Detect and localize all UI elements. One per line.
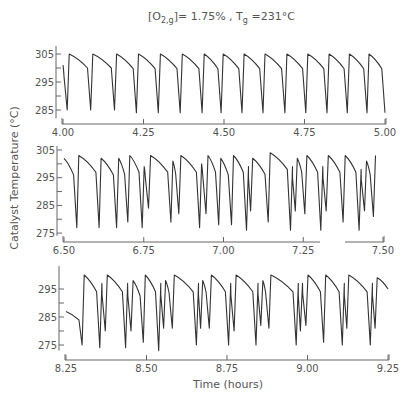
x-tick-label: 8.25 [55, 363, 77, 374]
panel-3: 2752852958.258.508.759.009.25 [38, 266, 399, 374]
y-tick-label: 285 [38, 312, 57, 323]
x-tick-label: 8.50 [135, 363, 157, 374]
x-tick-label: 7.50 [372, 245, 394, 256]
y-tick-label: 305 [35, 49, 54, 60]
panel-2: 2752852953056.506.757.007.257.50 [36, 145, 394, 257]
x-tick-label: 4.75 [293, 127, 315, 138]
y-axis-title: Catalyst Temperature (°C) [8, 106, 21, 250]
x-tick-label: 8.75 [216, 363, 238, 374]
y-tick-label: 295 [36, 172, 55, 183]
chart-title: [O2,g]= 1.75% , Tg =231°C [148, 10, 295, 25]
x-tick-label: 6.50 [53, 245, 75, 256]
x-tick-label: 7.00 [212, 245, 234, 256]
y-tick-label: 275 [38, 340, 57, 351]
y-tick-label: 285 [36, 200, 55, 211]
x-tick-label: 9.00 [296, 363, 318, 374]
title-subscript: 2,g [161, 16, 174, 25]
x-tick-label: 5.00 [374, 127, 396, 138]
x-tick-label: 4.50 [213, 127, 235, 138]
y-tick-label: 295 [35, 77, 54, 88]
y-tick-label: 285 [35, 105, 54, 116]
y-tick-label: 305 [36, 145, 55, 156]
figure: [O2,g]= 1.75% , Tg =231°C Catalyst Tempe… [0, 0, 412, 400]
x-tick-label: 9.25 [377, 363, 399, 374]
x-tick-label: 6.75 [133, 245, 155, 256]
y-tick-label: 295 [38, 284, 57, 295]
panel-1: 2852953054.004.254.504.755.00 [35, 46, 396, 138]
panels: 2852953054.004.254.504.755.0027528529530… [35, 46, 399, 374]
y-tick-label: 275 [36, 228, 55, 239]
title-part: [O [148, 10, 161, 23]
title-part: =231°C [248, 10, 295, 23]
x-tick-label: 4.00 [52, 127, 74, 138]
temperature-trace [63, 54, 385, 113]
title-part: = 1.75% , T [178, 10, 243, 23]
x-axis-title: Time (hours) [192, 378, 263, 391]
temperature-trace [64, 153, 376, 231]
x-tick-label: 4.25 [132, 127, 154, 138]
x-tick-label: 7.25 [292, 245, 314, 256]
temperature-trace [66, 275, 388, 351]
